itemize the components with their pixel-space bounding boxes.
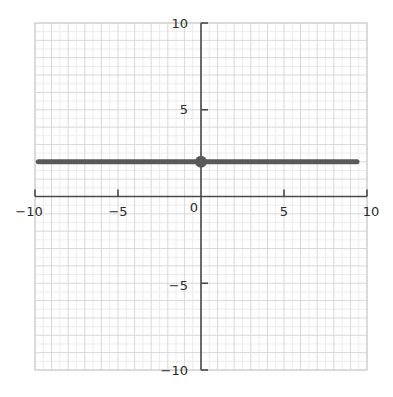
data-point-marker [195, 156, 207, 168]
y-tick-label-neg5: −5 [169, 278, 188, 293]
coordinate-plane-chart: −10 −5 0 5 10 10 5 −5 −10 [0, 0, 393, 397]
x-tick-label-neg10: −10 [15, 204, 42, 219]
x-tick-label-zero: 0 [190, 200, 198, 215]
x-tick-label-pos5: 5 [280, 204, 288, 219]
x-tick-label-neg5: −5 [108, 204, 127, 219]
y-tick-label-pos5: 5 [180, 102, 188, 117]
y-tick-label-pos10: 10 [171, 16, 188, 31]
graph-container: −10 −5 0 5 10 10 5 −5 −10 [0, 0, 393, 397]
x-tick-label-pos10: 10 [363, 204, 380, 219]
y-tick-label-neg10: −10 [161, 363, 188, 378]
